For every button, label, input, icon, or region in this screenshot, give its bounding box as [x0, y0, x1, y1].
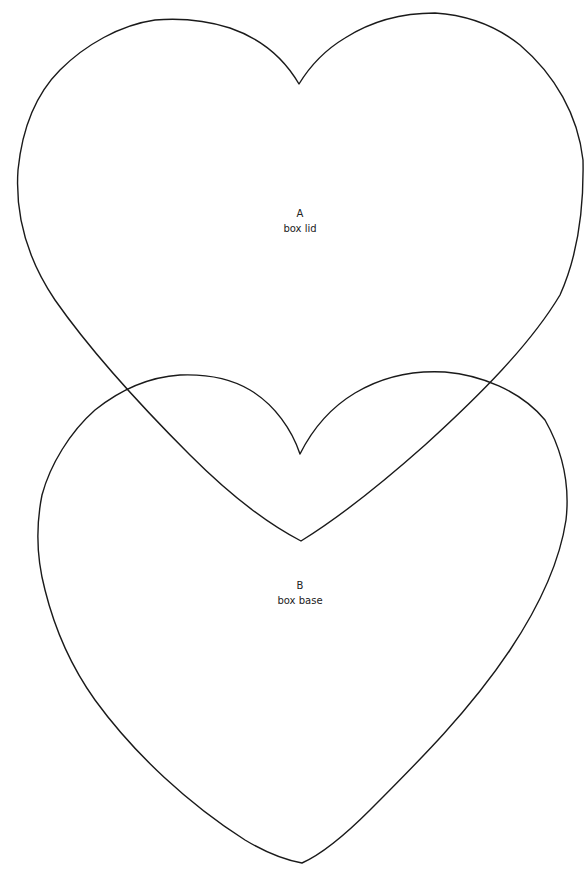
template-a-label: A box lid	[240, 206, 360, 236]
heart-b-outline	[38, 372, 567, 863]
heart-templates-drawing	[0, 0, 584, 873]
heart-a-outline	[18, 13, 584, 541]
template-b-label: B box base	[240, 578, 360, 608]
template-a-caption: box lid	[240, 221, 360, 236]
template-b-caption: box base	[240, 593, 360, 608]
template-a-letter: A	[240, 206, 360, 221]
template-b-letter: B	[240, 578, 360, 593]
